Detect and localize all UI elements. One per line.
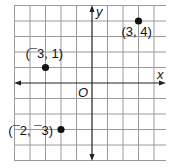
point-label: (¯2, ¯3) [8, 123, 53, 138]
x-axis-left-arrow-icon [14, 81, 21, 86]
data-point [57, 126, 64, 133]
y-axis-down-arrow-icon [90, 154, 95, 161]
labels: xyO(3, 4)(¯3, 1)(¯2, ¯3) [8, 4, 164, 138]
x-axis-label: x [156, 67, 164, 82]
coordinate-plane: xyO(3, 4)(¯3, 1)(¯2, ¯3) [0, 0, 169, 168]
data-point [42, 64, 49, 71]
point-label: (3, 4) [122, 24, 152, 39]
origin-label: O [78, 85, 88, 100]
y-axis-up-arrow-icon [90, 5, 95, 12]
point-label: (¯3, 1) [26, 46, 64, 61]
y-axis-label: y [95, 4, 104, 19]
